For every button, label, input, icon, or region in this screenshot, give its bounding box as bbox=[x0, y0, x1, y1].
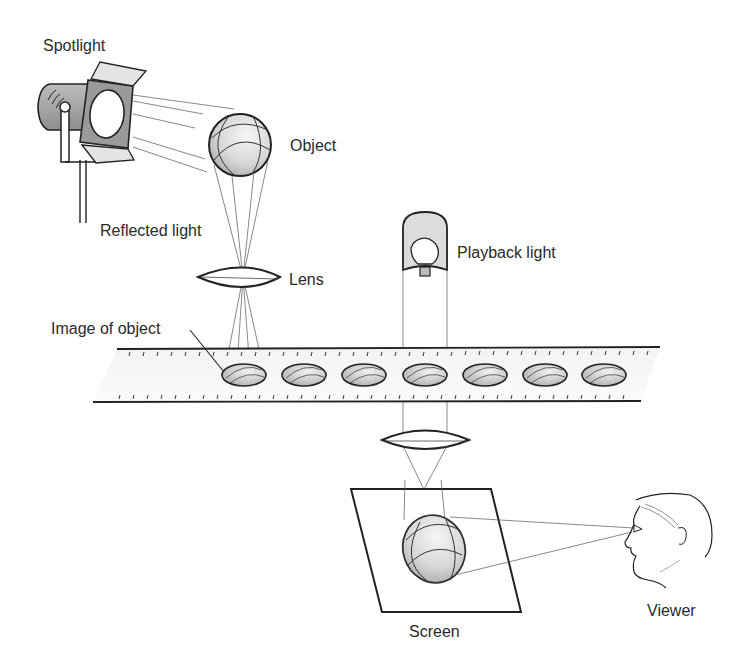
playback-light-icon bbox=[403, 212, 447, 440]
label-reflected-light: Reflected light bbox=[100, 222, 202, 239]
label-viewer: Viewer bbox=[647, 602, 696, 619]
screen-panel bbox=[351, 480, 521, 612]
spotlight-icon bbox=[38, 62, 146, 223]
film-frame bbox=[463, 364, 507, 386]
film-frame bbox=[582, 364, 626, 386]
label-object: Object bbox=[290, 137, 337, 154]
label-lens: Lens bbox=[289, 271, 324, 288]
film-frame bbox=[523, 364, 567, 386]
label-image-of-object: Image of object bbox=[51, 320, 161, 337]
projection-lens-icon bbox=[382, 431, 469, 450]
diagram-canvas: Spotlight Object Reflected light Lens Pl… bbox=[0, 0, 756, 663]
film-frame bbox=[282, 364, 326, 386]
label-spotlight: Spotlight bbox=[43, 37, 106, 54]
film-frame bbox=[342, 364, 386, 386]
film-frame bbox=[222, 364, 266, 386]
recording-lens-icon bbox=[198, 268, 280, 288]
label-playback-light: Playback light bbox=[457, 244, 556, 261]
viewer-head-icon bbox=[625, 493, 712, 588]
object-sphere-icon bbox=[209, 114, 271, 176]
film-frame bbox=[403, 364, 447, 386]
film-strip bbox=[93, 347, 660, 402]
label-screen: Screen bbox=[409, 623, 460, 640]
